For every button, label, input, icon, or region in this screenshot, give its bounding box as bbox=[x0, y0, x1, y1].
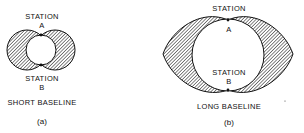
inner-circle-a bbox=[26, 35, 56, 65]
station-a-label: STATION bbox=[25, 12, 59, 21]
baseline-label-a: SHORT BASELINE bbox=[8, 98, 77, 107]
station-b-label-b: STATION bbox=[212, 68, 246, 77]
station-b-dot bbox=[40, 64, 43, 67]
station-b-dot-b bbox=[227, 89, 230, 92]
station-a-label-b: STATION bbox=[212, 4, 246, 13]
baseline-diagram: STATION A STATION B SHORT BASELINE (a) S… bbox=[0, 0, 304, 133]
station-b-letter-b: B bbox=[226, 77, 231, 86]
station-a-dot-b bbox=[227, 19, 230, 22]
caption-b: (b) bbox=[224, 118, 234, 127]
caption-a: (a) bbox=[37, 117, 47, 126]
station-a-letter-b: A bbox=[226, 25, 231, 34]
station-a-letter: A bbox=[39, 21, 44, 30]
station-b-letter: B bbox=[39, 83, 44, 92]
station-a-dot bbox=[40, 34, 43, 37]
station-b-label: STATION bbox=[25, 74, 59, 83]
figure-a-short-baseline: STATION A STATION B SHORT BASELINE (a) bbox=[7, 12, 76, 126]
speck bbox=[284, 100, 285, 101]
baseline-label-b: LONG BASELINE bbox=[197, 102, 261, 111]
figure-b-long-baseline: STATION A STATION B LONG BASELINE (b) bbox=[163, 4, 293, 127]
